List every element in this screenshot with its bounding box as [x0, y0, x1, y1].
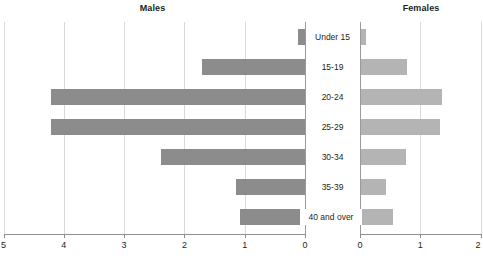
male-bar-30-34: [161, 149, 305, 165]
category-label: 35-39: [306, 179, 359, 195]
females-tick-label-1: 1: [418, 240, 423, 250]
female-bar-under-15: [361, 29, 366, 45]
males-tick-label-3: 3: [122, 240, 127, 250]
category-label: 25-29: [306, 119, 359, 135]
bar-rows: Under 1515-1920-2425-2930-3435-3940 and …: [0, 22, 483, 234]
pyramid-row: 30-34: [0, 142, 483, 172]
males-axis-line: [4, 234, 305, 235]
males-tick-label-0: 0: [302, 240, 307, 250]
female-bar-30-34: [361, 149, 406, 165]
males-panel-title: Males: [0, 3, 305, 13]
males-tick-label-1: 1: [242, 240, 247, 250]
females-tick-0: [360, 234, 361, 238]
males-tick-label-4: 4: [61, 240, 66, 250]
males-tick-5: [4, 234, 5, 238]
category-label: 15-19: [306, 59, 359, 75]
males-tick-label-5: 5: [1, 240, 6, 250]
female-bar-15-19: [361, 59, 407, 75]
males-tick-1: [245, 234, 246, 238]
female-bar-35-39: [361, 179, 386, 195]
females-tick-label-2: 2: [475, 240, 480, 250]
females-panel-title: Females: [360, 3, 482, 13]
category-label: 20-24: [306, 89, 359, 105]
female-bar-40-and-over: [361, 209, 393, 225]
pyramid-row: 40 and over: [0, 202, 483, 232]
male-bar-40-and-over: [240, 209, 305, 225]
female-bar-20-24: [361, 89, 442, 105]
males-tick-4: [64, 234, 65, 238]
male-bar-20-24: [51, 89, 305, 105]
category-label: 40 and over: [300, 209, 362, 225]
male-bar-15-19: [202, 59, 305, 75]
pyramid-row: 25-29: [0, 112, 483, 142]
females-tick-2: [481, 234, 482, 238]
male-bar-25-29: [51, 119, 305, 135]
females-tick-label-0: 0: [357, 240, 362, 250]
population-pyramid-chart: Males Females Under 1515-1920-2425-2930-…: [0, 0, 483, 261]
males-tick-3: [124, 234, 125, 238]
male-bar-under-15: [298, 29, 305, 45]
category-label: Under 15: [306, 29, 359, 45]
pyramid-row: Under 15: [0, 22, 483, 52]
females-tick-1: [420, 234, 421, 238]
pyramid-row: 35-39: [0, 172, 483, 202]
category-label: 30-34: [306, 149, 359, 165]
males-tick-label-2: 2: [182, 240, 187, 250]
female-bar-25-29: [361, 119, 440, 135]
males-tick-2: [184, 234, 185, 238]
pyramid-row: 15-19: [0, 52, 483, 82]
male-bar-35-39: [236, 179, 305, 195]
pyramid-row: 20-24: [0, 82, 483, 112]
males-tick-0: [305, 234, 306, 238]
